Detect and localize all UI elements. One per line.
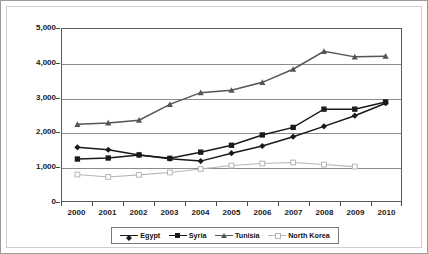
data-point-open-square <box>137 172 142 177</box>
data-point-filled-square <box>106 155 111 160</box>
chart-legend: EgyptSyriaTunisiaNorth Korea <box>111 227 339 244</box>
x-axis-tick-mark <box>278 202 279 206</box>
y-axis-tick-mark <box>56 98 60 99</box>
data-point-filled-square <box>383 99 388 104</box>
legend-label: Syria <box>189 231 207 240</box>
y-axis-tick-label: 3,000 <box>36 94 56 102</box>
data-point-diamond <box>198 158 204 164</box>
x-axis-tick-label: 2005 <box>223 209 241 217</box>
x-axis-ticks: 2000200120022003200420052006200720082009… <box>61 202 402 224</box>
x-axis-tick-label: 2004 <box>192 209 210 217</box>
data-point-open-square <box>260 161 265 166</box>
data-point-triangle <box>290 66 296 72</box>
x-axis-tick-label: 2003 <box>161 209 179 217</box>
data-point-diamond <box>74 144 80 150</box>
x-axis-tick-mark <box>371 202 372 206</box>
data-point-open-square <box>198 167 203 172</box>
data-point-filled-square <box>352 106 357 111</box>
x-axis-tick-label: 2006 <box>254 209 272 217</box>
legend-label: Egypt <box>140 231 160 240</box>
data-point-filled-square <box>167 156 172 161</box>
chart-container: Per capita GDP/GNI ($US) 01,0002,0003,00… <box>0 0 428 254</box>
legend-item-tunisia[interactable]: Tunisia <box>215 231 260 240</box>
data-point-open-square <box>322 162 327 167</box>
x-axis-tick-mark <box>185 202 186 206</box>
data-point-filled-square <box>321 106 326 111</box>
x-axis-tick-mark <box>92 202 93 206</box>
y-axis-tick-label: 5,000 <box>36 24 56 32</box>
x-axis-tick-mark <box>123 202 124 206</box>
x-axis-tick-mark <box>61 202 62 206</box>
y-axis-tick-label: 4,000 <box>36 59 56 67</box>
data-point-diamond <box>321 123 327 129</box>
series-lines <box>62 29 401 201</box>
data-point-open-square <box>352 164 357 169</box>
x-axis-tick-label: 2007 <box>285 209 303 217</box>
x-axis-tick-mark <box>247 202 248 206</box>
legend-marker-filled-square-icon <box>169 231 187 240</box>
x-axis-tick-mark <box>154 202 155 206</box>
y-axis-tick-mark <box>56 132 60 133</box>
y-axis-tick-mark <box>56 28 60 29</box>
data-point-diamond <box>290 134 296 140</box>
x-axis-tick-label: 2009 <box>347 209 365 217</box>
data-point-filled-square <box>198 149 203 154</box>
y-axis-ticks: 01,0002,0003,0004,0005,000 <box>7 28 56 202</box>
data-point-open-square <box>291 160 296 165</box>
legend-marker-diamond-icon <box>120 231 138 240</box>
legend-label: Tunisia <box>235 231 260 240</box>
legend-marker-triangle-icon <box>215 231 233 240</box>
y-axis-tick-mark <box>56 63 60 64</box>
data-point-open-square <box>167 170 172 175</box>
data-point-filled-square <box>229 143 234 148</box>
legend-item-north-korea[interactable]: North Korea <box>268 231 330 240</box>
x-axis-tick-mark <box>216 202 217 206</box>
data-point-filled-square <box>260 132 265 137</box>
data-point-filled-square <box>75 156 80 161</box>
data-point-filled-square <box>290 125 295 130</box>
legend-item-egypt[interactable]: Egypt <box>120 231 160 240</box>
x-axis-tick-label: 2002 <box>130 209 148 217</box>
data-point-diamond <box>105 147 111 153</box>
x-axis-tick-mark <box>340 202 341 206</box>
data-point-open-square <box>75 172 80 177</box>
data-point-filled-square <box>136 152 141 157</box>
x-axis-tick-mark <box>401 202 402 206</box>
data-point-diamond <box>228 150 234 156</box>
data-point-open-square <box>106 175 111 180</box>
data-point-open-square <box>229 163 234 168</box>
x-axis-tick-label: 2008 <box>316 209 334 217</box>
y-axis-tick-label: 1,000 <box>36 163 56 171</box>
data-point-diamond <box>259 143 265 149</box>
x-axis-tick-label: 2010 <box>378 209 396 217</box>
legend-marker-open-square-icon <box>268 231 286 240</box>
x-axis-tick-label: 2001 <box>99 209 117 217</box>
series-line-north-korea <box>77 162 354 176</box>
y-axis-tick-label: 2,000 <box>36 128 56 136</box>
chart-plot-frame: Per capita GDP/GNI ($US) 01,0002,0003,00… <box>6 6 422 248</box>
data-point-diamond <box>352 113 358 119</box>
legend-label: North Korea <box>288 231 330 240</box>
legend-item-syria[interactable]: Syria <box>169 231 207 240</box>
y-axis-tick-mark <box>56 167 60 168</box>
x-axis-tick-label: 2000 <box>68 209 86 217</box>
x-axis-tick-mark <box>309 202 310 206</box>
plot-area <box>61 28 402 202</box>
y-axis-tick-mark <box>56 202 60 203</box>
